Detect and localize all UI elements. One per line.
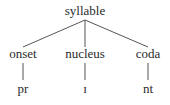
leaf-nucleus: ɪ: [83, 82, 87, 96]
node-coda: coda: [136, 47, 161, 61]
node-onset: onset: [9, 47, 36, 61]
node-nucleus: nucleus: [65, 47, 105, 61]
edge-syllable-onset: [23, 20, 85, 47]
edge-syllable-coda: [85, 20, 148, 47]
leaf-coda: nt: [143, 82, 153, 96]
leaf-onset: pr: [18, 82, 29, 96]
node-syllable: syllable: [65, 4, 105, 18]
